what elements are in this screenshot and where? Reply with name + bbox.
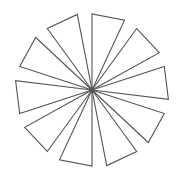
radial-triangle-figure bbox=[0, 0, 183, 175]
triangle bbox=[92, 29, 159, 91]
triangle bbox=[92, 90, 137, 166]
triangle bbox=[16, 81, 92, 114]
triangle bbox=[92, 67, 168, 100]
triangle bbox=[25, 90, 92, 152]
triangle bbox=[47, 14, 92, 90]
triangle-group bbox=[16, 14, 169, 166]
